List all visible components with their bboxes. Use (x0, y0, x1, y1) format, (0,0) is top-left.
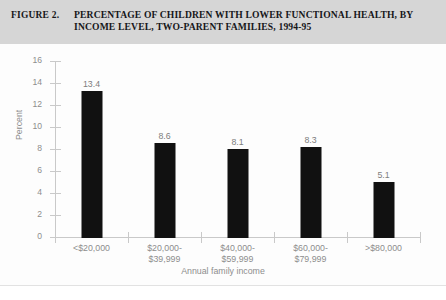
x-category-label-line: >$80,000 (365, 243, 402, 254)
bar-value-label: 13.4 (83, 79, 100, 89)
figure-title-line-2: INCOME LEVEL, TWO-PARENT FAMILIES, 1994-… (74, 21, 434, 33)
bar[interactable] (154, 143, 175, 238)
bar-group: 5.1>$80,000 (347, 62, 420, 238)
bar-value-label: 8.6 (158, 131, 170, 141)
y-tick-label: 12 (16, 99, 42, 109)
x-tick (420, 232, 421, 243)
y-tick-label: 16 (16, 55, 42, 65)
y-tick-label: 10 (16, 121, 42, 131)
x-category-label-line: $79,999 (293, 254, 328, 265)
bar-group: 8.3$60,000-$79,999 (274, 62, 347, 238)
bar[interactable] (373, 182, 394, 238)
bar-chart: Percent 0246810121416 13.4<$20,0008.6$20… (0, 44, 446, 285)
figure-title-line-1: PERCENTAGE OF CHILDREN WITH LOWER FUNCTI… (74, 9, 434, 21)
x-category-label: <$20,000 (73, 243, 110, 254)
x-category-label-line: $40,000- (220, 243, 255, 254)
figure-header-band: FIGURE 2. PERCENTAGE OF CHILDREN WITH LO… (0, 0, 446, 44)
x-category-label-line: <$20,000 (73, 243, 110, 254)
x-category-label-line: $60,000- (293, 243, 328, 254)
bottom-divider (0, 285, 446, 286)
y-tick-label: 6 (16, 165, 42, 175)
y-tick-label: 14 (16, 77, 42, 87)
bar[interactable] (300, 147, 321, 238)
bar-value-label: 5.1 (377, 170, 389, 180)
figure-number: FIGURE 2. (11, 10, 59, 20)
x-category-label-line: $59,999 (220, 254, 255, 265)
plot-area: 0246810121416 13.4<$20,0008.6$20,000-$39… (55, 62, 420, 238)
x-category-label-line: $20,000- (147, 243, 182, 254)
x-category-label: $60,000-$79,999 (293, 243, 328, 264)
x-category-label: $20,000-$39,999 (147, 243, 182, 264)
y-tick-label: 0 (16, 231, 42, 241)
bar-group: 13.4<$20,000 (55, 62, 128, 238)
y-tick-label: 4 (16, 187, 42, 197)
y-tick-label: 8 (16, 143, 42, 153)
bar-group: 8.6$20,000-$39,999 (128, 62, 201, 238)
bar-group: 8.1$40,000-$59,999 (201, 62, 274, 238)
figure-title: PERCENTAGE OF CHILDREN WITH LOWER FUNCTI… (74, 9, 434, 34)
bar-value-label: 8.1 (231, 137, 243, 147)
x-category-label: >$80,000 (365, 243, 402, 254)
x-category-label-line: $39,999 (147, 254, 182, 265)
bar-value-label: 8.3 (304, 135, 316, 145)
bar[interactable] (81, 91, 102, 238)
x-category-label: $40,000-$59,999 (220, 243, 255, 264)
y-tick-label: 2 (16, 209, 42, 219)
bar[interactable] (227, 149, 248, 238)
x-axis-title: Annual family income (0, 266, 446, 276)
